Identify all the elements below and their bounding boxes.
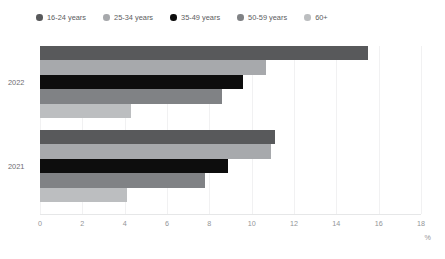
chart-legend: 16-24 years25-34 years35-49 years50-59 y… (36, 14, 345, 21)
x-tick-label-6: 6 (165, 219, 169, 228)
y-axis-group-label-2022: 2022 (8, 78, 42, 87)
plot-area: 20222021 (40, 46, 421, 214)
legend-item-label: 25-34 years (114, 14, 153, 21)
legend-swatch-icon (304, 14, 311, 21)
bar-2021-50-59-years[interactable] (40, 173, 205, 187)
x-tick-label-16: 16 (375, 219, 383, 228)
x-tick-label-8: 8 (207, 219, 211, 228)
legend-swatch-icon (103, 14, 110, 21)
legend-swatch-icon (237, 14, 244, 21)
legend-item-1[interactable]: 25-34 years (103, 14, 153, 21)
legend-item-0[interactable]: 16-24 years (36, 14, 86, 21)
x-axis-unit-label: % (425, 233, 431, 242)
bar-row (40, 104, 421, 118)
bar-2022-35-49-years[interactable] (40, 75, 243, 89)
bar-2021-16-24-years[interactable] (40, 130, 275, 144)
bar-row (40, 75, 421, 89)
bar-2022-25-34-years[interactable] (40, 60, 266, 74)
x-tick-label-2: 2 (80, 219, 84, 228)
legend-item-label: 35-49 years (181, 14, 220, 21)
chart-title: Proportion of employees who report being… (33, 0, 433, 3)
x-tick-label-10: 10 (248, 219, 256, 228)
x-tick-label-12: 12 (290, 219, 298, 228)
gridline-18 (421, 46, 422, 214)
bar-row (40, 130, 421, 144)
x-tick-label-14: 14 (332, 219, 340, 228)
legend-swatch-icon (36, 14, 43, 21)
bar-row (40, 46, 421, 60)
x-tick-label-18: 18 (417, 219, 425, 228)
bar-2022-50-59-years[interactable] (40, 89, 222, 103)
y-axis-group-label-2021: 2021 (8, 162, 42, 171)
bar-row (40, 188, 421, 202)
x-tick-label-0: 0 (38, 219, 42, 228)
bar-row (40, 60, 421, 74)
legend-item-2[interactable]: 35-49 years (170, 14, 220, 21)
bar-row (40, 89, 421, 103)
legend-swatch-icon (170, 14, 177, 21)
x-axis-line (40, 214, 421, 215)
legend-item-4[interactable]: 60+ (304, 14, 328, 21)
legend-item-label: 16-24 years (47, 14, 86, 21)
bar-group-2021 (40, 130, 421, 202)
bar-group-2022 (40, 46, 421, 118)
legend-item-label: 60+ (315, 14, 328, 21)
bar-row (40, 173, 421, 187)
bar-2022-60+[interactable] (40, 104, 131, 118)
bar-2021-60+[interactable] (40, 188, 127, 202)
bar-row (40, 159, 421, 173)
bar-row (40, 144, 421, 158)
legend-item-label: 50-59 years (248, 14, 287, 21)
legend-item-3[interactable]: 50-59 years (237, 14, 287, 21)
bar-2022-16-24-years[interactable] (40, 46, 368, 60)
bar-2021-35-49-years[interactable] (40, 159, 228, 173)
bar-2021-25-34-years[interactable] (40, 144, 271, 158)
x-tick-label-4: 4 (123, 219, 127, 228)
